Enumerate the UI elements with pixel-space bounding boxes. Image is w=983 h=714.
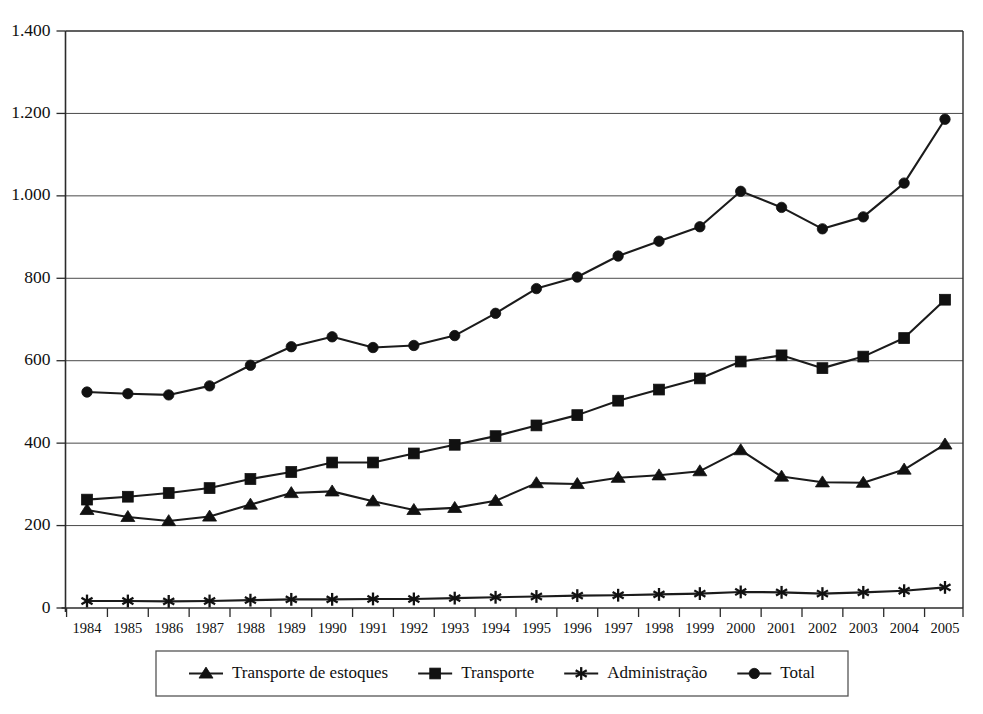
- marker-square-legend-1: [430, 668, 441, 679]
- x-tick-label-1996: 1996: [563, 620, 592, 636]
- y-tick-label-800: 800: [24, 267, 51, 287]
- marker-circle-legend-3: [749, 668, 759, 678]
- y-tick-label-0: 0: [42, 597, 51, 617]
- legend-label-0: Transporte de estoques: [232, 663, 388, 682]
- x-tick-label-2002: 2002: [808, 620, 837, 636]
- marker-square-1-13: [613, 395, 624, 406]
- x-tick-label-1986: 1986: [154, 620, 183, 636]
- x-tick-label-1987: 1987: [195, 620, 224, 636]
- x-tick-label-1997: 1997: [604, 620, 633, 636]
- marker-circle-3-10: [490, 308, 500, 318]
- marker-circle-3-1: [123, 388, 133, 398]
- x-tick-label-2001: 2001: [767, 620, 796, 636]
- marker-circle-3-9: [450, 330, 460, 340]
- legend-label-3: Total: [780, 663, 815, 682]
- marker-circle-3-21: [940, 114, 950, 124]
- marker-circle-3-17: [776, 202, 786, 212]
- marker-square-1-18: [817, 363, 828, 374]
- marker-circle-3-13: [613, 251, 623, 261]
- y-tick-label-1400: 1.400: [11, 20, 51, 40]
- x-tick-label-1985: 1985: [113, 620, 142, 636]
- marker-square-1-2: [163, 488, 174, 499]
- marker-square-1-7: [368, 457, 379, 468]
- marker-circle-3-3: [204, 381, 214, 391]
- marker-square-1-6: [327, 457, 338, 468]
- marker-circle-3-0: [82, 387, 92, 397]
- line-chart-figure: 02004006008001.0001.2001.400 19841985198…: [0, 0, 983, 714]
- x-tick-label-1989: 1989: [277, 620, 306, 636]
- x-tick-label-1990: 1990: [318, 620, 347, 636]
- x-tick-label-2004: 2004: [890, 620, 920, 636]
- marker-circle-3-6: [327, 332, 337, 342]
- marker-square-1-1: [122, 491, 133, 502]
- marker-square-1-8: [408, 448, 419, 459]
- marker-square-1-17: [776, 350, 787, 361]
- marker-square-1-5: [286, 467, 297, 478]
- marker-square-1-14: [654, 384, 665, 395]
- marker-square-1-12: [572, 410, 583, 421]
- legend-label-1: Transporte: [461, 663, 534, 682]
- y-tick-label-600: 600: [24, 349, 51, 369]
- marker-circle-3-19: [858, 212, 868, 222]
- x-tick-label-1992: 1992: [399, 620, 428, 636]
- marker-square-1-16: [735, 356, 746, 367]
- y-tick-label-1200: 1.200: [11, 102, 51, 122]
- x-tick-label-2000: 2000: [726, 620, 755, 636]
- x-tick-label-2005: 2005: [931, 620, 960, 636]
- x-tick-label-1999: 1999: [685, 620, 714, 636]
- marker-square-1-3: [204, 483, 215, 494]
- marker-circle-3-20: [899, 178, 909, 188]
- marker-square-1-19: [858, 351, 869, 362]
- x-tick-label-1991: 1991: [359, 620, 388, 636]
- marker-circle-3-15: [695, 222, 705, 232]
- chart-canvas: 02004006008001.0001.2001.400 19841985198…: [0, 0, 983, 714]
- marker-square-1-15: [694, 373, 705, 384]
- marker-circle-3-7: [368, 342, 378, 352]
- legend-label-2: Administração: [607, 663, 707, 682]
- marker-square-1-20: [899, 333, 910, 344]
- marker-circle-3-4: [245, 360, 255, 370]
- marker-circle-3-5: [286, 342, 296, 352]
- x-tick-label-2003: 2003: [849, 620, 878, 636]
- marker-circle-3-16: [736, 186, 746, 196]
- marker-square-1-10: [490, 431, 501, 442]
- marker-square-1-11: [531, 420, 542, 431]
- chart-legend: Transporte de estoquesTransporteAdminist…: [156, 651, 848, 696]
- marker-circle-3-8: [409, 340, 419, 350]
- marker-square-1-21: [940, 294, 951, 305]
- x-tick-label-1998: 1998: [645, 620, 674, 636]
- y-tick-label-400: 400: [24, 432, 51, 452]
- figure-background: [0, 0, 983, 714]
- marker-circle-3-18: [817, 224, 827, 234]
- x-tick-label-1993: 1993: [440, 620, 469, 636]
- marker-circle-3-12: [572, 272, 582, 282]
- x-tick-label-1995: 1995: [522, 620, 551, 636]
- marker-square-1-0: [82, 494, 93, 505]
- x-tick-label-1988: 1988: [236, 620, 265, 636]
- marker-circle-3-2: [164, 390, 174, 400]
- x-tick-label-1984: 1984: [73, 620, 103, 636]
- y-tick-label-200: 200: [24, 514, 51, 534]
- marker-circle-3-11: [531, 283, 541, 293]
- marker-circle-3-14: [654, 236, 664, 246]
- x-tick-label-1994: 1994: [481, 620, 511, 636]
- y-tick-label-1000: 1.000: [11, 184, 51, 204]
- marker-square-1-4: [245, 474, 256, 485]
- marker-square-1-9: [449, 439, 460, 450]
